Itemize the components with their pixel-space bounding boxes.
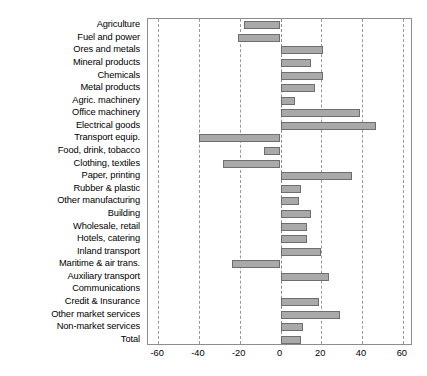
category-label: Clothing, textiles — [0, 158, 140, 168]
bar — [281, 84, 316, 92]
bar-chart: AgricultureFuel and powerOres and metals… — [0, 0, 427, 376]
gridline--40 — [199, 19, 200, 344]
gridline-40 — [362, 19, 363, 344]
bar — [281, 223, 308, 231]
category-label: Transport equip. — [0, 132, 140, 142]
bar — [238, 34, 281, 42]
bar — [244, 21, 281, 29]
category-label: Agriculture — [0, 19, 140, 29]
category-label: Food, drink, tobacco — [0, 145, 140, 155]
bar — [199, 134, 281, 142]
bar — [281, 172, 352, 180]
category-label: Ores and metals — [0, 44, 140, 54]
bar — [281, 323, 303, 331]
bar — [281, 72, 324, 80]
category-label: Mineral products — [0, 57, 140, 67]
gridline--20 — [240, 19, 241, 344]
x-tick-label: 0 — [277, 348, 282, 359]
bar — [281, 235, 308, 243]
category-label: Building — [0, 208, 140, 218]
bar — [264, 147, 280, 155]
bar — [281, 336, 301, 344]
x-tick-label: -60 — [150, 348, 163, 359]
x-tick-label: 60 — [397, 348, 407, 359]
gridline-0 — [281, 19, 282, 344]
category-label: Inland transport — [0, 246, 140, 256]
category-label: Rubber & plastic — [0, 183, 140, 193]
gridline--60 — [158, 19, 159, 344]
gridline-20 — [321, 19, 322, 344]
category-label: Office machinery — [0, 107, 140, 117]
category-label: Wholesale, retail — [0, 221, 140, 231]
category-label: Maritime & air trans. — [0, 258, 140, 268]
category-label: Total — [0, 334, 140, 344]
bar — [281, 185, 301, 193]
bar — [281, 248, 322, 256]
category-label: Metal products — [0, 82, 140, 92]
x-tick-label: -40 — [191, 348, 204, 359]
category-label: Fuel and power — [0, 32, 140, 42]
bar — [281, 298, 320, 306]
bar — [281, 109, 361, 117]
category-label: Communications — [0, 283, 140, 293]
bar — [281, 46, 324, 54]
category-label: Electrical goods — [0, 120, 140, 130]
bar — [281, 311, 340, 319]
bar — [281, 273, 330, 281]
bar — [281, 197, 299, 205]
bar — [223, 160, 280, 168]
category-axis: AgricultureFuel and powerOres and metals… — [0, 18, 143, 345]
gridline-60 — [403, 19, 404, 344]
bar — [281, 59, 312, 67]
category-label: Other market services — [0, 309, 140, 319]
bar — [281, 210, 312, 218]
bar — [281, 97, 295, 105]
bar — [281, 122, 377, 130]
bar — [232, 260, 281, 268]
category-label: Hotels, catering — [0, 233, 140, 243]
category-label: Other manufacturing — [0, 195, 140, 205]
value-axis: -60-40-200204060 — [147, 346, 412, 366]
x-tick-label: 40 — [356, 348, 366, 359]
category-label: Auxiliary transport — [0, 271, 140, 281]
category-label: Non-market services — [0, 321, 140, 331]
category-label: Chemicals — [0, 70, 140, 80]
category-label: Credit & Insurance — [0, 296, 140, 306]
x-tick-label: 20 — [315, 348, 325, 359]
x-tick-label: -20 — [232, 348, 245, 359]
category-label: Paper, printing — [0, 170, 140, 180]
category-label: Agric. machinery — [0, 95, 140, 105]
plot-area — [147, 18, 412, 345]
